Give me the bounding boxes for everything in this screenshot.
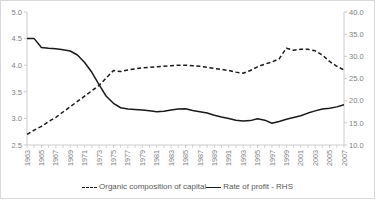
x-axis-tick-label: 1985 xyxy=(181,150,190,166)
data-series-group xyxy=(27,39,344,135)
x-axis-tick-label: 2007 xyxy=(340,150,349,166)
right-axis-tick-label: 15.0 xyxy=(349,119,364,128)
x-axis-tick-label: 1963 xyxy=(23,150,32,166)
right-axis-tick-label: 20.0 xyxy=(349,96,364,105)
x-axis-tick-label: 1997 xyxy=(268,150,277,166)
x-axis-tick-label: 1967 xyxy=(51,150,60,166)
right-axis-tick-label: 25.0 xyxy=(349,74,364,83)
x-axis-tick-label: 1973 xyxy=(95,150,104,166)
left-axis: 2.53.03.54.04.55.0 xyxy=(12,8,27,150)
right-axis: 10.015.020.025.030.035.040.0 xyxy=(344,8,364,150)
left-axis-tick-label: 2.5 xyxy=(12,141,22,150)
left-axis-tick-label: 3.0 xyxy=(12,114,22,123)
x-axis-tick-label: 1979 xyxy=(138,150,147,166)
legend-solid-line-icon xyxy=(206,187,221,188)
x-axis-tick-label: 1993 xyxy=(239,150,248,166)
legend-item-organic-composition: Organic composition of capital xyxy=(82,183,206,191)
left-axis-tick-label: 5.0 xyxy=(12,8,22,17)
x-axis-tick-label: 1995 xyxy=(253,150,262,166)
legend-label-organic-composition: Organic composition of capital xyxy=(99,183,206,191)
x-axis-tick-label: 2001 xyxy=(296,150,305,166)
right-axis-tick-label: 30.0 xyxy=(349,52,364,61)
x-axis: 1963196519671969197119731975197719791981… xyxy=(23,145,349,166)
right-axis-tick-label: 10.0 xyxy=(349,141,364,150)
x-axis-tick-label: 1965 xyxy=(37,150,46,166)
chart-container: 2.53.03.54.04.55.0 10.015.020.025.030.03… xyxy=(0,0,375,199)
x-axis-tick-label: 1969 xyxy=(66,150,75,166)
right-axis-tick-label: 40.0 xyxy=(349,8,364,17)
x-axis-tick-label: 1989 xyxy=(210,150,219,166)
left-axis-tick-label: 4.0 xyxy=(12,61,22,70)
series-line-rate-of-profit xyxy=(27,39,344,124)
legend-dashed-line-icon xyxy=(82,187,97,188)
x-axis-tick-label: 1987 xyxy=(196,150,205,166)
x-axis-tick-label: 1975 xyxy=(109,150,118,166)
x-axis-tick-label: 2003 xyxy=(311,150,320,166)
x-axis-tick-label: 1977 xyxy=(123,150,132,166)
x-axis-tick-label: 1983 xyxy=(167,150,176,166)
chart-plot-svg: 2.53.03.54.04.55.0 10.015.020.025.030.03… xyxy=(1,1,376,200)
right-axis-tick-label: 35.0 xyxy=(349,30,364,39)
legend-label-rate-of-profit: Rate of profit - RHS xyxy=(223,183,293,191)
x-axis-tick-label: 2005 xyxy=(325,150,334,166)
series-line-organic-composition xyxy=(27,48,344,134)
x-axis-tick-label: 1991 xyxy=(224,150,233,166)
x-axis-tick-label: 1999 xyxy=(282,150,291,166)
left-axis-tick-label: 4.5 xyxy=(12,34,22,43)
left-axis-tick-label: 3.5 xyxy=(12,88,22,97)
legend-item-rate-of-profit: Rate of profit - RHS xyxy=(206,183,293,191)
chart-legend: Organic composition of capital Rate of p… xyxy=(1,183,374,191)
x-axis-tick-label: 1971 xyxy=(80,150,89,166)
x-axis-tick-label: 1981 xyxy=(152,150,161,166)
